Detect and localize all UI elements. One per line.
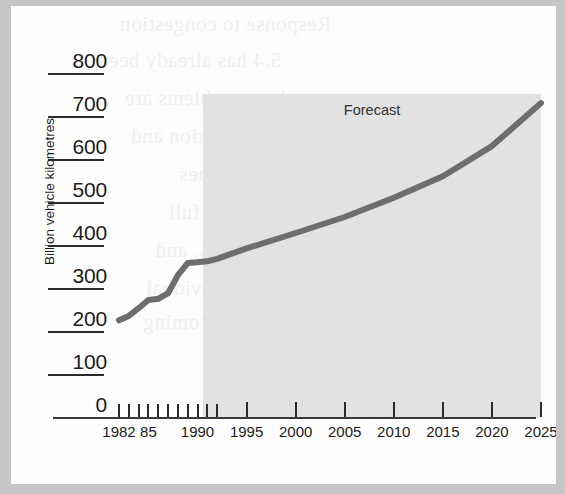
line-chart: Forecast Billion vehicle kilometres 8007… bbox=[11, 6, 556, 484]
scanned-page-canvas: Response to congestion 5.4 has already b… bbox=[0, 0, 565, 494]
road-traffic-line bbox=[119, 103, 541, 320]
series-layer bbox=[11, 6, 556, 484]
paper-sheet: Response to congestion 5.4 has already b… bbox=[11, 6, 556, 484]
